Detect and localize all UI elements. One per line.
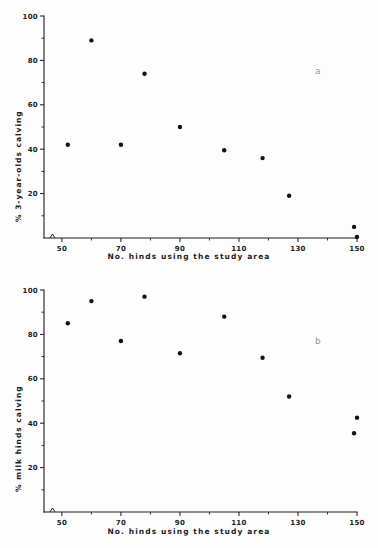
y-axis-title-b: % milk hinds calving [14, 385, 23, 492]
x-tick-label: 110 [231, 519, 247, 527]
panel-label-b: b [315, 336, 321, 346]
data-point [260, 156, 264, 160]
data-point [119, 143, 123, 147]
panel-label-a: a [315, 66, 321, 76]
data-point [352, 431, 356, 435]
y-tick-label: 80 [28, 331, 38, 339]
x-tick-label: 70 [116, 519, 126, 527]
y-tick-label: 20 [28, 190, 38, 198]
data-point [66, 143, 70, 147]
data-point [142, 72, 146, 76]
data-point [222, 314, 226, 318]
y-tick-label: 100 [22, 287, 38, 295]
y-tick-label: 20 [28, 464, 38, 472]
data-point [89, 299, 93, 303]
y-tick-label: 40 [28, 420, 38, 428]
data-point [355, 235, 359, 239]
x-tick-label: 50 [57, 519, 67, 527]
scatter-plot-b: 20406080100507090110130150 [0, 274, 378, 548]
x-tick-label: 90 [175, 519, 185, 527]
data-point [89, 38, 93, 42]
data-point [142, 294, 146, 298]
data-point [355, 415, 359, 419]
x-axis-break-mark [50, 234, 55, 238]
y-tick-label: 60 [28, 101, 38, 109]
panel-a: 20406080100507090110130150 % 3-year-olds… [0, 0, 378, 274]
data-point [352, 225, 356, 229]
data-point [178, 125, 182, 129]
data-point [222, 148, 226, 152]
panel-b: 20406080100507090110130150 [0, 274, 378, 548]
y-tick-label: 60 [28, 375, 38, 383]
scatter-plot-a: 20406080100507090110130150 [0, 0, 378, 274]
y-tick-label: 100 [22, 13, 38, 21]
data-point [287, 194, 291, 198]
x-axis-title-a: No. hinds using the study area [0, 252, 378, 261]
data-point [287, 394, 291, 398]
y-tick-label: 40 [28, 146, 38, 154]
data-point [178, 351, 182, 355]
x-axis-break-mark [50, 508, 55, 512]
figure-two-scatter-panels: 20406080100507090110130150 % 3-year-olds… [0, 0, 378, 548]
x-axis-title-b: No. hinds using the study area [0, 527, 378, 536]
data-point [260, 356, 264, 360]
x-tick-label: 150 [349, 519, 365, 527]
y-tick-label: 80 [28, 57, 38, 65]
x-tick-label: 130 [290, 519, 306, 527]
y-axis-title-a: % 3-year-olds calving [14, 110, 23, 222]
data-point [66, 321, 70, 325]
data-point [119, 339, 123, 343]
